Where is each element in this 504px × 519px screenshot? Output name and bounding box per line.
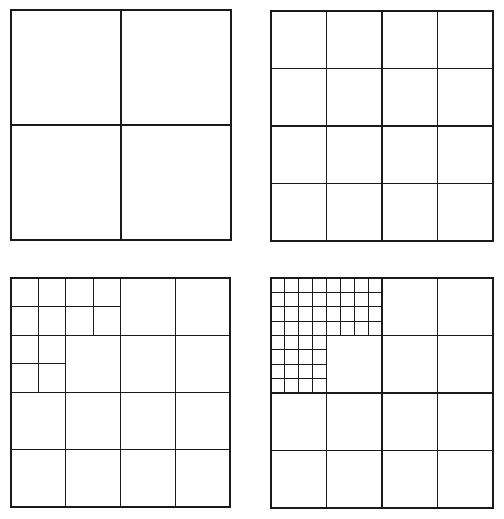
grid-panel-3 (11, 278, 230, 507)
grid-panel-4 (271, 278, 493, 508)
grid-panel-2 (271, 11, 493, 241)
grid-panel-1 (11, 10, 231, 240)
